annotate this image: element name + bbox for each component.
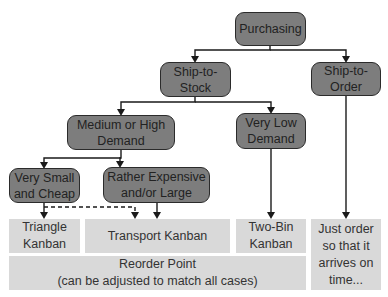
outcome-triangle-kanban: Triangle Kanban — [9, 219, 80, 253]
node-ship-to-order: Ship-to- Order — [311, 62, 381, 96]
node-ship-to-stock: Ship-to- Stock — [160, 62, 231, 97]
outcome-reorder-point: Reorder Point (can be adjusted to match … — [9, 256, 306, 290]
purchasing-decision-tree: Purchasing Ship-to- Stock Ship-to- Order… — [0, 0, 388, 297]
node-purchasing: Purchasing — [235, 12, 306, 46]
node-very-small-cheap: Very Small and Cheap — [9, 168, 80, 203]
outcome-just-order: Just order so that it arrives on time... — [311, 219, 381, 290]
outcome-two-bin-kanban: Two-Bin Kanban — [236, 219, 306, 253]
node-rather-expensive-large: Rather Expensive and/or Large — [103, 167, 210, 203]
outcome-transport-kanban: Transport Kanban — [85, 219, 230, 253]
node-medium-high-demand: Medium or High Demand — [67, 115, 175, 150]
node-very-low-demand: Very Low Demand — [236, 113, 306, 149]
